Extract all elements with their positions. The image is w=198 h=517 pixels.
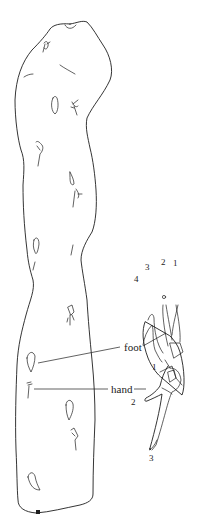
foot-digit-2: 2 xyxy=(161,257,166,267)
track-print xyxy=(73,189,82,207)
track-print xyxy=(67,305,74,325)
track-print xyxy=(71,428,78,450)
hand-digit-3: 3 xyxy=(149,453,154,463)
scratch-mark xyxy=(71,245,73,255)
foot-label: foot xyxy=(124,341,142,353)
foot-leader-right xyxy=(143,333,166,346)
track-print xyxy=(70,172,74,185)
track-print xyxy=(27,382,32,398)
track-print xyxy=(43,42,50,52)
hand-digit-1: 1 xyxy=(152,362,157,372)
track-print xyxy=(28,473,40,490)
slab-outline xyxy=(15,21,112,513)
diagram-canvas: foot hand 1 2 3 4 1 2 3 xyxy=(0,0,198,517)
bottom-mark xyxy=(36,510,40,514)
foot-leader-left xyxy=(38,347,120,363)
foot-detail-drawing xyxy=(143,295,184,395)
track-print xyxy=(71,100,78,115)
hand-digit-2: 2 xyxy=(131,397,136,407)
foot-digit-4: 4 xyxy=(134,274,139,284)
track-print xyxy=(36,141,43,166)
track-print xyxy=(66,400,73,420)
track-print xyxy=(52,97,59,115)
scratch-mark xyxy=(60,65,75,74)
scratch-mark xyxy=(24,74,33,77)
hand-label: hand xyxy=(111,383,133,395)
track-print xyxy=(33,238,39,270)
foot-digit-3: 3 xyxy=(145,262,150,272)
track-print xyxy=(27,352,35,372)
top-notch-mark xyxy=(65,25,76,28)
foot-digit-1: 1 xyxy=(173,258,178,268)
